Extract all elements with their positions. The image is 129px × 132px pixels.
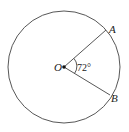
angle-label: 72° xyxy=(77,62,91,73)
circle-diagram: O A B 72° xyxy=(0,0,129,132)
label-a: A xyxy=(108,23,116,35)
label-b: B xyxy=(111,92,118,104)
center-point xyxy=(62,65,66,69)
label-o: O xyxy=(54,61,62,73)
